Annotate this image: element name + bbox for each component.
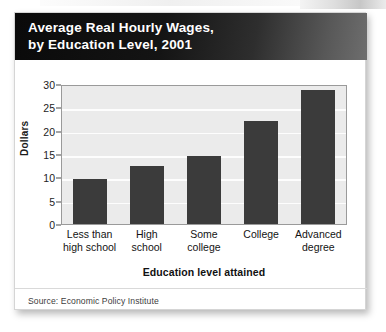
bar-slot [119, 86, 176, 224]
x-category-label: Less thanhigh school [61, 228, 118, 253]
source-divider: Source: Economic Policy Institute [15, 288, 367, 306]
x-category-line: High [118, 228, 175, 241]
chart-title-line-1: Average Real Hourly Wages, [28, 19, 367, 36]
bar [73, 179, 107, 224]
chart-figure: Average Real Hourly Wages, by Education … [0, 0, 386, 332]
y-tick-label: 30 [43, 79, 55, 91]
x-category-line: College [233, 228, 290, 241]
y-tick-label: 20 [43, 126, 55, 138]
x-category-line: high school [61, 241, 118, 254]
x-category-label: College [233, 228, 290, 253]
chart-body: Dollars 051015202530 Less thanhigh schoo… [15, 60, 367, 311]
y-axis-ticks: 051015202530 [31, 85, 61, 225]
y-tick-label: 15 [43, 149, 55, 161]
x-category-line: Less than [61, 228, 118, 241]
x-category-line: school [118, 241, 175, 254]
chart-title-line-2: by Education Level, 2001 [28, 36, 367, 53]
y-tick-label: 25 [43, 102, 55, 114]
bar-series [62, 86, 346, 224]
bar-slot [62, 86, 119, 224]
chart-card: Average Real Hourly Wages, by Education … [14, 12, 366, 310]
x-category-line: Advanced [290, 228, 347, 241]
bar-slot [232, 86, 289, 224]
y-axis-title: Dollars [19, 121, 30, 156]
x-axis-category-labels: Less thanhigh schoolHighschoolSomecolleg… [61, 228, 347, 253]
bar [130, 166, 164, 224]
y-tick-label: 5 [49, 196, 55, 208]
x-axis-title: Education level attained [61, 266, 347, 278]
y-tick-label: 0 [49, 219, 55, 231]
plot-area [61, 85, 347, 225]
chart-header: Average Real Hourly Wages, by Education … [15, 13, 367, 60]
bar [187, 156, 221, 224]
y-tick-label: 10 [43, 172, 55, 184]
x-category-line: degree [290, 241, 347, 254]
scan-artifact-corner [300, 0, 386, 9]
x-category-line: college [175, 241, 232, 254]
x-category-label: Somecollege [175, 228, 232, 253]
x-category-label: Highschool [118, 228, 175, 253]
bar-slot [289, 86, 346, 224]
source-note: Source: Economic Policy Institute [15, 289, 367, 306]
bar [301, 90, 335, 224]
x-category-line: Some [175, 228, 232, 241]
scan-artifact-top [40, 0, 300, 6]
bar [244, 121, 278, 224]
x-category-label: Advanceddegree [290, 228, 347, 253]
bar-slot [176, 86, 233, 224]
